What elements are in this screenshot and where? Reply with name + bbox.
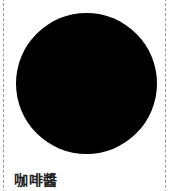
color-swatch-circle[interactable] [16, 13, 157, 154]
color-name-label: 咖啡醬 [14, 172, 58, 188]
